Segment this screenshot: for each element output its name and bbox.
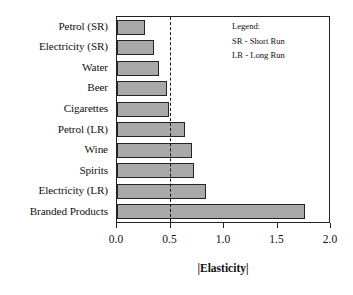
legend: Legend: SR - Short Run LR - Long Run <box>232 20 285 62</box>
bar <box>117 184 206 199</box>
y-axis-label: Petrol (SR) <box>0 16 112 37</box>
bar-row <box>117 181 329 202</box>
bar-row <box>117 79 329 100</box>
x-axis-title: |Elasticity| <box>116 262 330 274</box>
y-axis-label: Electricity (SR) <box>0 37 112 58</box>
bar-row <box>117 120 329 141</box>
bar <box>117 81 167 96</box>
y-axis-label: Cigarettes <box>0 98 112 119</box>
bar <box>117 163 194 178</box>
x-axis-tick <box>330 223 331 228</box>
bar <box>117 20 145 35</box>
x-axis-tick-label: 0.5 <box>162 233 176 245</box>
x-axis-tick-label: 2.0 <box>323 233 337 245</box>
bar-row <box>117 38 329 59</box>
x-axis: 0.00.51.01.52.0 <box>116 222 330 223</box>
y-axis-label: Water <box>0 57 112 78</box>
legend-entry-lr: LR - Long Run <box>232 49 285 62</box>
bar <box>117 102 169 117</box>
y-axis-label: Branded Products <box>0 201 112 222</box>
plot-area <box>116 16 330 222</box>
bar <box>117 143 192 158</box>
bar-row <box>117 140 329 161</box>
x-axis-tick <box>277 223 278 228</box>
y-axis-category-labels: Petrol (SR)Electricity (SR)WaterBeerCiga… <box>0 16 112 222</box>
x-axis-tick <box>116 223 117 228</box>
bar <box>117 61 159 76</box>
bar-row <box>117 58 329 79</box>
y-axis-label: Electricity (LR) <box>0 181 112 202</box>
bar <box>117 40 154 55</box>
bar <box>117 122 185 137</box>
x-axis-tick-label: 1.0 <box>216 233 230 245</box>
elasticity-bar-chart: Petrol (SR)Electricity (SR)WaterBeerCiga… <box>0 0 353 295</box>
legend-entry-sr: SR - Short Run <box>232 35 285 48</box>
bar-row <box>117 17 329 38</box>
bar-row <box>117 202 329 223</box>
y-axis-label: Petrol (LR) <box>0 119 112 140</box>
y-axis-label: Wine <box>0 140 112 161</box>
bar <box>117 204 305 219</box>
legend-title: Legend: <box>232 20 285 33</box>
y-axis-label: Spirits <box>0 160 112 181</box>
reference-line-0.5 <box>170 17 171 222</box>
bar-row <box>117 161 329 182</box>
x-axis-tick-label: 0.0 <box>109 233 123 245</box>
bar-series <box>117 17 329 222</box>
x-axis-tick <box>170 223 171 228</box>
x-axis-tick <box>223 223 224 228</box>
x-axis-tick-label: 1.5 <box>269 233 283 245</box>
bar-row <box>117 99 329 120</box>
y-axis-label: Beer <box>0 78 112 99</box>
